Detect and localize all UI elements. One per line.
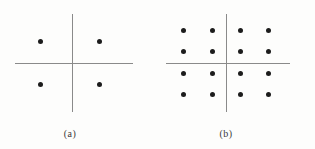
panel-caption-b: (b) [219, 128, 232, 139]
dot-marker [97, 39, 102, 44]
vertical-axis-a [72, 14, 73, 112]
dot-marker [181, 92, 186, 97]
dot-marker [210, 28, 215, 33]
dot-marker [266, 28, 271, 33]
panel-caption-a: (a) [64, 128, 77, 139]
dot-marker [266, 49, 271, 54]
dot-marker [97, 82, 102, 87]
dot-marker [38, 82, 43, 87]
dot-marker [266, 92, 271, 97]
dot-marker [210, 71, 215, 76]
dot-marker [181, 71, 186, 76]
dot-marker [181, 49, 186, 54]
dot-marker [266, 71, 271, 76]
panel-a: (a) [0, 0, 157, 149]
dot-marker [238, 49, 243, 54]
dot-marker [238, 92, 243, 97]
dot-marker [210, 49, 215, 54]
dot-marker [38, 39, 43, 44]
dot-marker [238, 28, 243, 33]
panel-b: (b) [157, 0, 315, 149]
vertical-axis-b [226, 14, 227, 112]
figure-root: (a) (b) [0, 0, 315, 149]
dot-marker [210, 92, 215, 97]
horizontal-axis-b [166, 63, 290, 64]
dot-marker [181, 28, 186, 33]
dot-marker [238, 71, 243, 76]
horizontal-axis-a [15, 63, 133, 64]
